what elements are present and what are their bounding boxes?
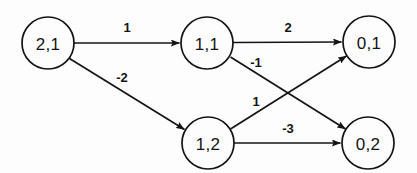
edge-weight-1-2-to-0-1: 1 bbox=[252, 94, 259, 109]
node-0-2-label: 0,2 bbox=[356, 135, 381, 154]
edge-weight-2-1-to-1-2: -2 bbox=[116, 70, 128, 85]
node-0-1-label: 0,1 bbox=[357, 34, 382, 53]
edge-1-1-to-0-1 bbox=[233, 42, 342, 43]
diagram-canvas: 2,1 1,1 0,1 1,2 0,2 1 -2 2 bbox=[0, 0, 417, 173]
node-1-1-label: 1,1 bbox=[195, 35, 220, 54]
edge-weight-1-1-to-0-1: 2 bbox=[284, 20, 291, 35]
edge-weight-1-2-to-0-2: -3 bbox=[282, 121, 294, 136]
node-2-1-label: 2,1 bbox=[36, 35, 61, 54]
node-0-1[interactable]: 0,1 bbox=[343, 16, 395, 68]
node-0-2[interactable]: 0,2 bbox=[342, 117, 394, 169]
edge-weight-1-1-to-0-2: -1 bbox=[250, 55, 262, 70]
node-1-1[interactable]: 1,1 bbox=[181, 17, 233, 69]
edge-weight-2-1-to-1-1: 1 bbox=[123, 20, 130, 35]
node-group: 2,1 1,1 0,1 1,2 0,2 bbox=[22, 16, 395, 169]
node-1-2-label: 1,2 bbox=[196, 135, 221, 154]
graph-svg: 2,1 1,1 0,1 1,2 0,2 1 -2 2 bbox=[0, 0, 417, 173]
node-2-1[interactable]: 2,1 bbox=[22, 17, 74, 69]
node-1-2[interactable]: 1,2 bbox=[182, 117, 234, 169]
